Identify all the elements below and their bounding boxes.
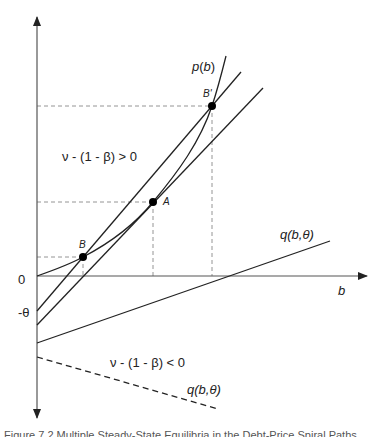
caption-text: Figure 7.2 Multiple Steady-State Equilib… — [0, 428, 385, 437]
q-upper-label: q(b,θ) — [280, 227, 314, 242]
figure-caption: Figure 7.2 Multiple Steady-State Equilib… — [0, 428, 385, 437]
p-curve — [37, 56, 226, 276]
p-curve-label: p)(b) — [191, 59, 215, 74]
region-upper-label: ν - (1 - β) > 0 — [62, 149, 137, 164]
x-axis-label: b — [338, 283, 345, 298]
point-b — [79, 253, 87, 261]
dashed-guides — [37, 106, 212, 276]
origin-label: 0 — [18, 272, 25, 287]
point-bprime-label: B' — [203, 88, 213, 99]
neg-theta-label: -θ — [18, 305, 30, 320]
region-lower-label: ν - (1 - β) < 0 — [110, 355, 185, 370]
equilibria-diagram: B A B' 0 -θ b p)(b) q(b,θ) q(b,θ) ν - (1… — [0, 0, 385, 437]
point-a-label: A — [162, 196, 170, 207]
point-b-label: B — [79, 239, 86, 250]
q-lower-label: q(b,θ) — [187, 382, 221, 397]
point-a — [149, 198, 157, 206]
point-bprime — [208, 102, 216, 110]
tangent-line-a — [37, 88, 263, 325]
